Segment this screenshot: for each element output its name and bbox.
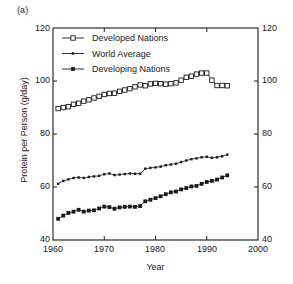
legend-label: Developed Nations xyxy=(92,33,169,43)
legend-item-developed-nations: Developed Nations xyxy=(62,33,169,43)
axes-frame xyxy=(53,28,258,240)
legend-item-world-average: World Average xyxy=(62,49,151,59)
series-developed-nations xyxy=(56,71,230,111)
series-world-average xyxy=(57,153,229,185)
legend-label: World Average xyxy=(92,49,151,59)
data-series-group xyxy=(56,71,230,221)
series-developing-nations xyxy=(56,173,229,220)
axis-ticks xyxy=(53,28,258,240)
figure-panel: (a) Protein per Person (g/day) Year 120 … xyxy=(0,0,293,284)
chart-legend: Developed NationsWorld AverageDeveloping… xyxy=(62,33,171,74)
legend-label: Developing Nations xyxy=(92,64,171,74)
plot-canvas: Developed NationsWorld AverageDeveloping… xyxy=(0,0,293,284)
legend-item-developing-nations: Developing Nations xyxy=(62,64,171,74)
